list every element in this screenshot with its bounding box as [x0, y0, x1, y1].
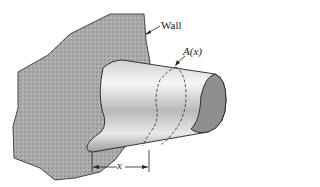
wall-label: Wall: [161, 19, 182, 31]
distance-label: x: [117, 159, 122, 171]
area-label: A(x): [183, 45, 202, 57]
